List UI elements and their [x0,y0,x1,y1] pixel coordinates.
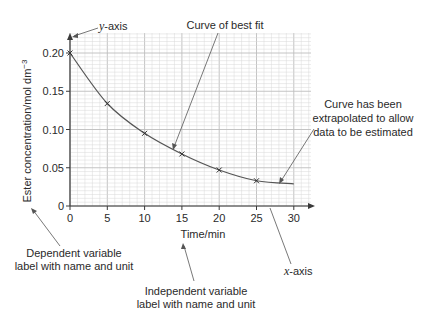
svg-text:label with name and unit: label with name and unit [137,298,256,310]
svg-text:extrapolated to allow: extrapolated to allow [313,112,414,124]
y-axis-title: Ester concentration/mol dm−3 [20,59,33,203]
x-tick-label: 30 [288,212,300,224]
svg-text:label with name and unit: label with name and unit [15,260,134,272]
graph-paper-grid [70,33,311,206]
x-axis-arrowhead [308,203,315,209]
y-tick-label: 0.10 [43,124,64,136]
y-tick-label: 0.15 [43,85,64,97]
annotation-dependent-variable: Dependent variable label with name and u… [15,208,134,272]
x-tick-label: 15 [176,212,188,224]
x-tick-label: 20 [213,212,225,224]
concentration-time-diagram: 05101520253000.050.100.150.20 Time/min E… [0,0,437,322]
svg-text:data to be estimated: data to be estimated [313,126,413,138]
y-axis-annotation-label: y-axis [98,19,128,33]
best-fit-annotation-label: Curve of best fit [186,19,263,31]
x-tick-label: 5 [104,212,110,224]
tick-labels: 05101520253000.050.100.150.20 [43,47,300,224]
annotation-curve-of-best-fit: Curve of best fit [172,19,264,150]
y-tick-label: 0.20 [43,47,64,59]
x-axis-title: Time/min [181,228,226,240]
x-tick-label: 0 [67,212,73,224]
x-axis-annotation-label: x-axis [283,264,313,278]
x-tick-label: 25 [250,212,262,224]
annotation-independent-variable: Independent variable label with name and… [137,243,256,310]
x-tick-label: 10 [138,212,150,224]
data-points [68,51,260,184]
svg-text:Dependent variable: Dependent variable [26,247,121,259]
y-tick-label: 0 [58,200,64,212]
y-tick-label: 0.05 [43,162,64,174]
svg-text:Independent variable: Independent variable [145,285,248,297]
svg-text:Curve has been: Curve has been [324,98,402,110]
